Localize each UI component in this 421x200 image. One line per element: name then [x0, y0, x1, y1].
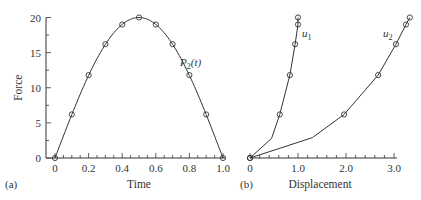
series-line-p2	[55, 18, 223, 159]
y-tick-label: 20	[30, 12, 42, 24]
y-axis-label: Force	[12, 75, 24, 101]
y-tick-label: 15	[30, 47, 42, 59]
x-axis-label: Time	[127, 178, 151, 190]
y-tick-label: 10	[30, 82, 42, 94]
figure: 0510152000.20.40.60.81.0TimeForce(a)P2(t…	[0, 0, 421, 200]
x-tick-label: 1.0	[216, 162, 230, 174]
x-tick-label: 1.0	[291, 162, 305, 174]
x-tick-label: 0.8	[183, 162, 197, 174]
y-tick-label: 0	[36, 152, 42, 164]
y-tick-label: 5	[36, 117, 42, 129]
x-tick-label: 3.0	[387, 162, 401, 174]
x-tick-label: 0	[52, 162, 58, 174]
x-tick-label: 0.2	[82, 162, 96, 174]
series-label-u2: u2	[383, 27, 393, 42]
x-tick-label: 0.6	[149, 162, 163, 174]
series-label-p2: P2(t)	[179, 56, 201, 71]
chart-panel-a: 0510152000.20.40.60.81.0TimeForce(a)P2(t…	[5, 12, 230, 192]
x-tick-label: 0.4	[115, 162, 129, 174]
x-tick-label: 2.0	[339, 162, 353, 174]
series-label-u1: u1	[302, 27, 312, 42]
chart-panel-b: 01.02.03.0Displacement(b)u1u2	[240, 15, 412, 191]
x-tick-label: 0	[247, 162, 253, 174]
panel-label-a: (a)	[5, 178, 18, 191]
series-line-u1	[250, 18, 298, 159]
panel-label-b: (b)	[240, 178, 253, 191]
x-axis-label: Displacement	[288, 178, 352, 191]
